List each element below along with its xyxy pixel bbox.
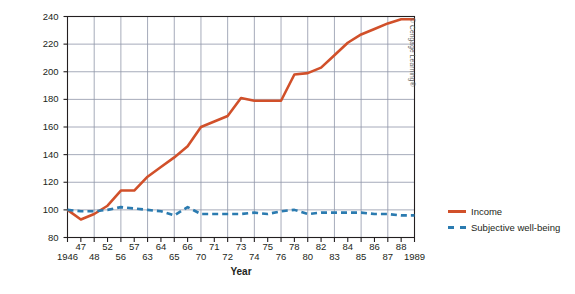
y-axis-tick-200: 200 xyxy=(33,67,59,77)
y-axis-tick-120: 120 xyxy=(33,177,59,187)
y-axis-tick-80: 80 xyxy=(33,233,59,243)
legend-item-income: Income xyxy=(448,203,560,219)
legend-label-subjective-well-being: Subjective well-being xyxy=(471,222,560,233)
legend-label-income: Income xyxy=(471,206,502,217)
x-axis-title: Year xyxy=(201,266,281,277)
y-axis-tick-220: 220 xyxy=(33,39,59,49)
chart-figure: Percentage of after-tax disposable perso… xyxy=(0,0,575,294)
legend-swatch-subjective-well-being xyxy=(448,226,466,229)
y-axis-tick-140: 140 xyxy=(33,150,59,160)
y-axis-tick-180: 180 xyxy=(33,94,59,104)
copyright-credit: © Cengage Learning® xyxy=(409,18,416,87)
y-axis-tick-160: 160 xyxy=(33,122,59,132)
y-axis-tick-100: 100 xyxy=(33,205,59,215)
x-axis-tick-1989: 1989 xyxy=(399,252,431,262)
y-axis-tick-240: 240 xyxy=(33,12,59,22)
legend-swatch-income xyxy=(448,210,466,213)
chart-legend: Income Subjective well-being xyxy=(448,203,560,235)
legend-item-subjective-well-being: Subjective well-being xyxy=(448,219,560,235)
